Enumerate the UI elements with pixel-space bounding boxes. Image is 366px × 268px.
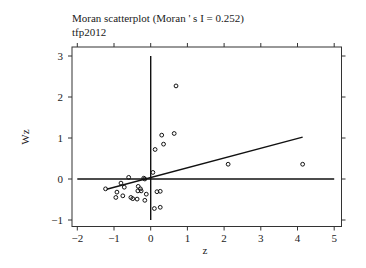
x-tick-label: −1 [108,232,120,244]
x-axis-ticks: −2−1012345 [71,43,337,244]
data-point [153,148,157,152]
data-point [152,207,156,211]
data-point [151,171,155,175]
x-tick-label: 0 [148,232,154,244]
data-point [160,133,164,137]
y-tick-label: 3 [58,50,64,62]
data-point [174,84,178,88]
data-point [119,181,123,185]
regression-line [107,137,303,189]
moran-scatterplot: −2−1012345 −10123 [0,0,366,268]
data-point [122,185,126,189]
data-point [115,190,119,194]
x-tick-label: 4 [295,232,301,244]
data-points [104,84,305,210]
data-point [172,132,176,136]
data-point [144,192,148,196]
data-point [301,162,305,166]
x-tick-label: 1 [185,232,191,244]
x-tick-label: 3 [258,232,264,244]
y-tick-label: 1 [58,132,64,144]
x-tick-label: 2 [221,232,227,244]
data-point [143,198,147,202]
data-point [162,142,166,146]
x-tick-label: 5 [331,232,337,244]
data-point [226,162,230,166]
data-point [114,196,118,200]
fitted-line [107,137,303,189]
data-point [121,194,125,198]
x-tick-label: −2 [71,232,83,244]
plot-frame [72,47,342,227]
y-tick-label: −1 [51,214,63,226]
data-point [135,197,139,201]
y-tick-label: 2 [58,91,64,103]
data-point [158,205,162,209]
y-tick-label: 0 [58,173,64,185]
